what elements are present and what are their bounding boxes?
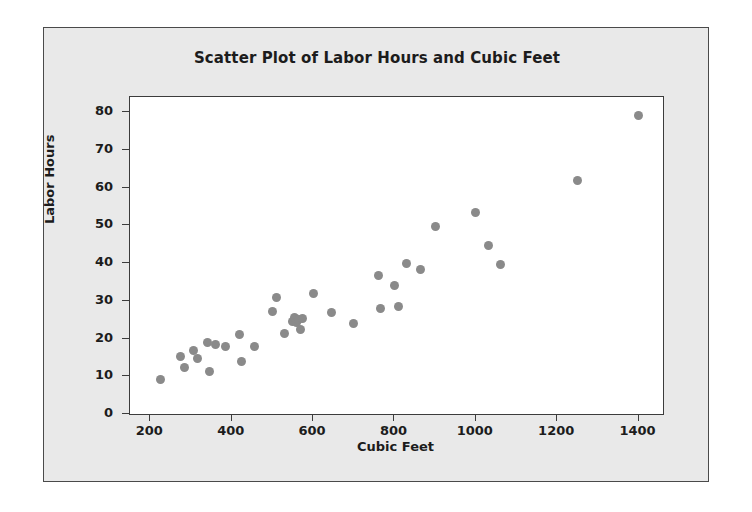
x-axis-title: Cubic Feet [129, 439, 662, 454]
y-axis-tick-label: 0 [73, 405, 113, 420]
y-axis-tick-mark [122, 111, 129, 112]
y-axis-tick-mark [122, 300, 129, 301]
plot-area [129, 96, 664, 415]
scatter-point [205, 367, 214, 376]
scatter-point [193, 354, 202, 363]
x-axis-tick-label: 400 [201, 423, 261, 438]
y-axis-tick-label: 20 [73, 330, 113, 345]
y-axis-tick-label: 70 [73, 141, 113, 156]
screenshot-root: Scatter Plot of Labor Hours and Cubic Fe… [0, 0, 752, 512]
scatter-point [327, 308, 336, 317]
scatter-point [250, 342, 259, 351]
scatter-point [496, 260, 505, 269]
y-axis-tick-mark [122, 338, 129, 339]
y-axis-tick-mark [122, 224, 129, 225]
x-axis-tick-mark [556, 414, 557, 421]
scatter-point [156, 375, 165, 384]
x-axis-tick-label: 800 [363, 423, 423, 438]
scatter-point [374, 271, 383, 280]
scatter-point [237, 357, 246, 366]
scatter-point [471, 208, 480, 217]
scatter-point [394, 302, 403, 311]
scatter-point [309, 289, 318, 298]
x-axis-tick-mark [231, 414, 232, 421]
y-axis-tick-label: 60 [73, 179, 113, 194]
scatter-point [573, 176, 582, 185]
y-axis-tick-label: 30 [73, 292, 113, 307]
scatter-point [235, 330, 244, 339]
y-axis-tick-mark [122, 149, 129, 150]
scatter-point [221, 342, 230, 351]
x-axis-tick-mark [312, 414, 313, 421]
scatter-point [634, 111, 643, 120]
x-axis-tick-mark [393, 414, 394, 421]
chart-figure-panel: Scatter Plot of Labor Hours and Cubic Fe… [43, 27, 709, 482]
x-axis-tick-label: 1200 [526, 423, 586, 438]
x-axis-tick-mark [638, 414, 639, 421]
scatter-point [280, 329, 289, 338]
scatter-point [296, 325, 305, 334]
y-axis-tick-label: 50 [73, 216, 113, 231]
y-axis-tick-mark [122, 187, 129, 188]
y-axis-title: Labor Hours [42, 135, 57, 224]
scatter-point [268, 307, 277, 316]
scatter-point [402, 259, 411, 268]
scatter-point [298, 314, 307, 323]
x-axis-tick-label: 1400 [608, 423, 668, 438]
x-axis-tick-mark [149, 414, 150, 421]
scatter-point [349, 319, 358, 328]
scatter-point [376, 304, 385, 313]
y-axis-tick-mark [122, 262, 129, 263]
y-axis-tick-label: 10 [73, 367, 113, 382]
scatter-point [180, 363, 189, 372]
scatter-point [211, 340, 220, 349]
y-axis-tick-mark [122, 375, 129, 376]
x-axis-tick-mark [475, 414, 476, 421]
scatter-point [390, 281, 399, 290]
scatter-point [431, 222, 440, 231]
y-axis-tick-label: 40 [73, 254, 113, 269]
y-axis-tick-mark [122, 413, 129, 414]
x-axis-tick-label: 200 [119, 423, 179, 438]
scatter-point [176, 352, 185, 361]
y-axis-tick-label: 80 [73, 103, 113, 118]
scatter-point [416, 265, 425, 274]
scatter-point [484, 241, 493, 250]
scatter-point [272, 293, 281, 302]
x-axis-tick-label: 600 [282, 423, 342, 438]
x-axis-tick-label: 1000 [445, 423, 505, 438]
chart-title: Scatter Plot of Labor Hours and Cubic Fe… [44, 49, 710, 67]
